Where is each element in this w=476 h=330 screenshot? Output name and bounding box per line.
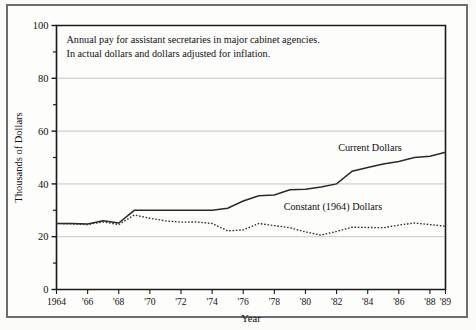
annotation-line-2: In actual dollars and dollars adjusted f… bbox=[67, 48, 271, 59]
x-tick-label: '72 bbox=[175, 296, 187, 307]
x-tick-label: '89 bbox=[440, 296, 452, 307]
x-tick-label: '70 bbox=[144, 296, 156, 307]
series-line-constant-dollars bbox=[57, 215, 446, 235]
x-tick-label: '68 bbox=[113, 296, 125, 307]
y-tick-label: 40 bbox=[38, 179, 49, 190]
x-tick-label: '76 bbox=[238, 296, 250, 307]
x-axis-title: Year bbox=[241, 313, 261, 324]
y-axis-title: Thousands of Dollars bbox=[13, 112, 24, 202]
series-label-current-dollars: Current Dollars bbox=[338, 142, 402, 153]
x-axis-tick-labels: 1964'66'68'70'72'74'76'78'80'82'84'86'88… bbox=[47, 296, 451, 307]
series-label-constant-dollars: Constant (1964) Dollars bbox=[284, 201, 383, 213]
y-tick-label: 80 bbox=[38, 73, 49, 84]
x-tick-label: '80 bbox=[300, 296, 312, 307]
x-tick-label: '88 bbox=[424, 296, 436, 307]
x-tick-label: '66 bbox=[82, 296, 94, 307]
y-tick-label: 0 bbox=[43, 284, 48, 295]
y-tick-label: 60 bbox=[38, 126, 49, 137]
x-tick-label: '82 bbox=[331, 296, 343, 307]
chart-svg: 020406080100 1964'66'68'70'72'74'76'78'8… bbox=[0, 0, 476, 330]
gridlines bbox=[58, 78, 445, 236]
plot-frame bbox=[57, 26, 446, 290]
x-tick-label: '86 bbox=[393, 296, 405, 307]
annotation-line-1: Annual pay for assistant secretaries in … bbox=[67, 34, 320, 45]
x-tick-label: '78 bbox=[269, 296, 281, 307]
y-axis-tick-labels: 020406080100 bbox=[33, 20, 49, 295]
line-chart: 020406080100 1964'66'68'70'72'74'76'78'8… bbox=[0, 0, 476, 330]
y-tick-label: 100 bbox=[33, 20, 49, 31]
chart-page: 020406080100 1964'66'68'70'72'74'76'78'8… bbox=[0, 0, 476, 330]
x-tick-label: 1964 bbox=[47, 296, 66, 307]
y-tick-label: 20 bbox=[38, 231, 49, 242]
x-tick-label: '84 bbox=[362, 296, 374, 307]
x-tick-label: '74 bbox=[206, 296, 218, 307]
series-line-current-dollars bbox=[57, 152, 446, 224]
